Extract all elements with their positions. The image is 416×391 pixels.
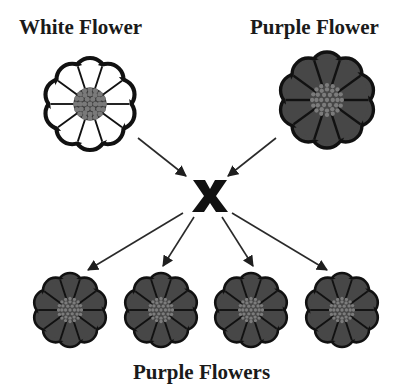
arrow-purple-to-cross xyxy=(228,138,276,176)
offspring-flower-2-icon xyxy=(125,273,197,347)
purple-flower-icon xyxy=(281,52,374,148)
offspring-flower-3-icon xyxy=(215,273,287,347)
arrow-cross-to-offspring-4 xyxy=(232,213,327,270)
arrow-white-to-cross xyxy=(138,138,186,176)
cross-diagram xyxy=(0,0,416,391)
offspring-flower-4-icon xyxy=(306,273,378,347)
arrow-cross-to-offspring-1 xyxy=(88,213,183,270)
arrow-cross-to-offspring-3 xyxy=(222,217,253,266)
cross-symbol-icon xyxy=(192,180,228,212)
arrow-cross-to-offspring-2 xyxy=(163,217,194,266)
white-flower-icon xyxy=(45,58,134,150)
offspring-flower-1-icon xyxy=(34,273,106,347)
